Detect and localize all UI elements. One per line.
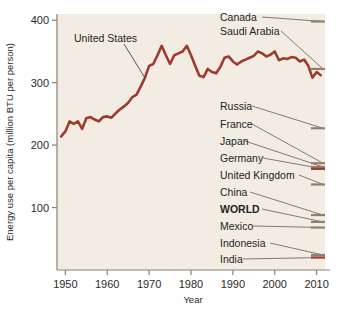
y-axis-title: Energy use per capita (million BTU per p… (4, 43, 15, 241)
series-label-saudi-arabia: Saudi Arabia (220, 25, 280, 37)
y-tick-label-300: 300 (31, 77, 49, 89)
x-tick-label-1970: 1970 (137, 278, 161, 290)
series-label-france: France (220, 118, 253, 130)
chart-canvas: 100200300400 195019601970198019902000201… (0, 0, 338, 309)
x-tick-label-1980: 1980 (179, 278, 203, 290)
series-label-united-states: United States (74, 32, 137, 44)
series-label-japan: Japan (220, 135, 249, 147)
y-axis-ticks: 100200300400 (31, 14, 57, 213)
y-tick-label-200: 200 (31, 139, 49, 151)
energy-use-per-capita-chart: 100200300400 195019601970198019902000201… (0, 0, 338, 309)
series-label-mexico: Mexico (220, 220, 253, 232)
x-tick-label-1950: 1950 (53, 278, 77, 290)
series-label-china: China (220, 186, 248, 198)
series-label-canada: Canada (220, 11, 257, 23)
series-label-india: India (220, 253, 243, 265)
y-tick-label-100: 100 (31, 202, 49, 214)
series-label-united-kingdom: United Kingdom (220, 169, 295, 181)
x-tick-label-2000: 2000 (263, 278, 287, 290)
series-label-world: WORLD (220, 203, 260, 215)
series-label-indonesia: Indonesia (220, 237, 266, 249)
y-tick-label-400: 400 (31, 14, 49, 26)
x-tick-label-1990: 1990 (221, 278, 245, 290)
x-axis-ticks: 1950196019701980199020002010 (53, 270, 329, 290)
x-axis-title: Year (183, 294, 202, 305)
series-label-germany: Germany (220, 152, 264, 164)
x-tick-label-1960: 1960 (95, 278, 119, 290)
x-tick-label-2010: 2010 (304, 278, 328, 290)
series-label-russia: Russia (220, 100, 252, 112)
